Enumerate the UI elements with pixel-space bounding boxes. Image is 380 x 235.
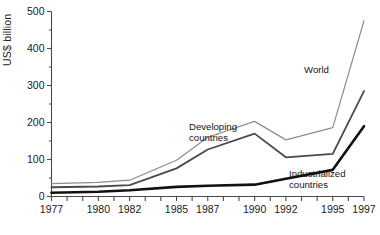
x-axis-tick-label: 1977 <box>36 203 68 215</box>
y-axis-tick-label: 500 <box>27 5 45 17</box>
x-axis-tick-label: 1985 <box>161 203 193 215</box>
x-axis-tick-label: 1980 <box>82 203 114 215</box>
annotation-industrialized-line: Industrialized <box>289 169 346 180</box>
y-axis-tick-label: 0 <box>39 190 45 202</box>
x-axis-tick-label: 1987 <box>192 203 224 215</box>
annotation-developing: Developingcountries <box>189 122 237 143</box>
x-axis-tick-label: 1995 <box>317 203 349 215</box>
annotation-world: World <box>304 65 329 76</box>
annotation-world-line: World <box>304 65 329 76</box>
x-axis-tick-label: 1992 <box>270 203 302 215</box>
annotation-developing-line: countries <box>189 133 237 144</box>
annotation-industrialized-line: countries <box>289 180 346 191</box>
y-axis-tick-label: 300 <box>27 79 45 91</box>
y-axis-tick-label: 100 <box>27 153 45 165</box>
x-axis-tick-label: 1982 <box>114 203 146 215</box>
x-axis-tick-label: 1997 <box>348 203 380 215</box>
x-axis-tick-label: 1990 <box>239 203 271 215</box>
y-axis-tick-label: 400 <box>27 42 45 54</box>
annotation-industrialized: Industrializedcountries <box>289 169 346 190</box>
annotation-developing-line: Developing <box>189 122 237 133</box>
series-line-world <box>52 21 365 184</box>
y-axis-tick-label: 200 <box>27 116 45 128</box>
